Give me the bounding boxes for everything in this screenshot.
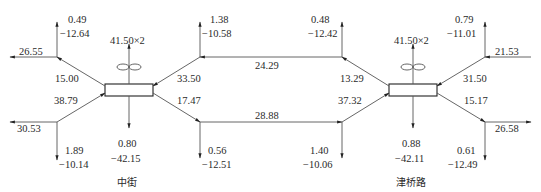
value-label: 21.53 xyxy=(495,46,519,57)
value-label: 1.40 xyxy=(310,145,328,156)
value-label: 26.58 xyxy=(495,123,519,134)
value-label: −10.14 xyxy=(59,159,89,170)
value-label: −12.42 xyxy=(308,28,338,39)
value-label: 0.56 xyxy=(208,145,226,156)
busbar-jinqiaolu xyxy=(389,84,437,96)
value-label: −12.49 xyxy=(448,159,478,170)
value-label: 37.32 xyxy=(338,95,362,106)
value-label: 0.61 xyxy=(457,145,475,156)
busbar-zhongjie xyxy=(105,84,153,96)
link-flow-top: 24.29 xyxy=(255,60,279,71)
station-name: 中街 xyxy=(117,176,137,188)
station-jinqiaolu xyxy=(389,44,437,128)
transformer-icon xyxy=(129,64,141,70)
load-q: −42.11 xyxy=(395,153,424,164)
load-q: −42.15 xyxy=(111,153,141,164)
value-label: −12.64 xyxy=(60,28,90,39)
station-zhongjie xyxy=(105,44,153,128)
value-label: −10.06 xyxy=(303,159,333,170)
value-label: 33.50 xyxy=(177,73,201,84)
value-label: 38.79 xyxy=(54,95,78,106)
load-p: 0.80 xyxy=(118,138,136,149)
value-label: −11.01 xyxy=(447,28,476,39)
transformer-icon xyxy=(117,64,129,70)
value-label: 17.47 xyxy=(177,95,201,106)
power-flow-diagram: 41.50×2 0.80 −42.15 中街 41.50×2 0.88 −42.… xyxy=(0,0,541,192)
gen-label: 41.50×2 xyxy=(110,35,145,46)
value-label: 0.79 xyxy=(455,14,473,25)
load-p: 0.88 xyxy=(402,138,420,149)
transformer-icon xyxy=(401,64,413,70)
value-label: 30.53 xyxy=(17,123,41,134)
value-label: 0.48 xyxy=(311,14,329,25)
value-label: 0.49 xyxy=(68,14,86,25)
value-label: 1.38 xyxy=(210,14,228,25)
transformer-icon xyxy=(413,64,425,70)
value-label: 15.17 xyxy=(464,95,488,106)
gen-label: 41.50×2 xyxy=(394,35,429,46)
value-label: 1.89 xyxy=(65,145,83,156)
value-label: −10.58 xyxy=(202,28,232,39)
value-label: 15.00 xyxy=(55,73,79,84)
value-label: −12.51 xyxy=(202,159,232,170)
station-name: 津桥路 xyxy=(396,176,426,188)
value-label: 13.29 xyxy=(340,73,364,84)
value-label: 31.50 xyxy=(463,73,487,84)
link-flow-bottom: 28.88 xyxy=(255,110,279,121)
value-label: 26.55 xyxy=(19,46,43,57)
